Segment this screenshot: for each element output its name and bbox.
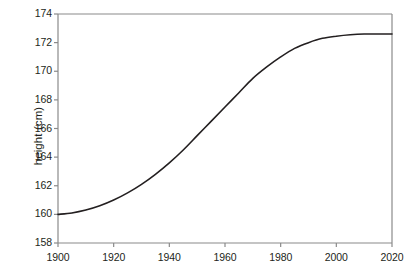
y-axis-tick-label: 170 [18,64,52,76]
y-axis-tick-label: 166 [18,122,52,134]
x-axis-tick-label: 1940 [147,251,191,263]
y-axis-tick-label: 164 [18,150,52,162]
x-axis-tick-label: 2000 [314,251,358,263]
y-axis-tick-label: 162 [18,179,52,191]
x-axis-tick-label: 1980 [259,251,303,263]
y-axis-tick-label: 160 [18,207,52,219]
x-axis-tick-label: 1960 [203,251,247,263]
y-axis-tick-label: 168 [18,93,52,105]
data-series-line [58,34,392,214]
y-axis-tick-label: 158 [18,236,52,248]
x-axis-tick-label: 1900 [36,251,80,263]
chart-root: height (cm) 158160162164166168170172174 … [0,0,418,271]
y-axis-tick-label: 174 [18,7,52,19]
x-axis-tick-label: 1920 [92,251,136,263]
line-chart-plot-area [0,0,418,271]
x-axis-tick-label: 2020 [370,251,414,263]
y-axis-tick-label: 172 [18,36,52,48]
